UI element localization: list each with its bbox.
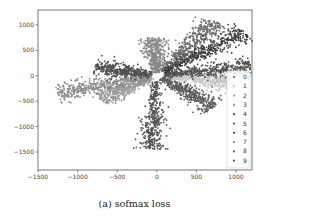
data-point (101, 63, 103, 65)
data-point (121, 86, 123, 88)
data-point (138, 88, 140, 90)
data-point (189, 32, 191, 34)
data-point (201, 27, 203, 29)
data-point (200, 33, 202, 35)
data-point (64, 81, 66, 83)
data-point (181, 80, 183, 82)
data-point (142, 72, 144, 74)
data-point (129, 80, 131, 82)
data-point (159, 105, 161, 107)
data-point (219, 74, 221, 76)
data-point (143, 76, 145, 78)
data-point (114, 82, 116, 84)
data-point (102, 70, 104, 72)
data-point (208, 46, 210, 48)
data-point (70, 84, 72, 86)
data-point (210, 61, 212, 63)
data-point (69, 86, 71, 88)
data-point (173, 54, 175, 56)
data-point (220, 72, 222, 74)
data-point (105, 62, 107, 64)
data-point (208, 102, 210, 104)
data-point (201, 50, 203, 52)
data-point (135, 138, 137, 140)
data-point (157, 66, 159, 68)
data-point (83, 95, 85, 97)
data-point (55, 87, 57, 89)
data-point (207, 87, 209, 89)
data-point (118, 68, 120, 70)
data-point (116, 86, 118, 88)
data-point (147, 146, 149, 148)
data-point (184, 56, 186, 58)
data-point (241, 67, 243, 69)
data-point (155, 110, 157, 112)
data-point (168, 81, 170, 83)
data-point (201, 18, 203, 20)
data-point (144, 135, 146, 137)
data-point (85, 92, 87, 94)
data-point (159, 54, 161, 56)
data-point (221, 37, 223, 39)
data-point (140, 120, 142, 122)
data-point (157, 69, 159, 71)
data-point (104, 66, 106, 68)
data-point (203, 19, 205, 21)
data-point (197, 35, 199, 37)
data-point (160, 45, 162, 47)
data-point (148, 42, 150, 44)
data-point (113, 88, 115, 90)
data-point (240, 58, 242, 60)
data-point (167, 71, 169, 73)
data-point (145, 74, 147, 76)
data-point (176, 61, 178, 63)
data-point (134, 92, 136, 94)
data-point (83, 83, 85, 85)
data-point (158, 132, 160, 134)
data-point (195, 100, 197, 102)
data-point (155, 124, 157, 126)
data-point (193, 65, 195, 67)
data-point (237, 39, 239, 41)
data-point (80, 86, 82, 88)
data-point (182, 61, 184, 63)
data-point (207, 106, 209, 108)
data-point (178, 68, 180, 70)
data-point (139, 147, 141, 149)
data-point (100, 90, 102, 92)
data-point (195, 70, 197, 72)
data-point (215, 75, 217, 77)
data-point (181, 49, 183, 51)
data-point (115, 63, 117, 65)
data-point (205, 38, 207, 40)
data-point (190, 54, 192, 56)
data-point (197, 71, 199, 73)
data-point (81, 76, 83, 78)
data-point (124, 73, 126, 75)
data-point (152, 142, 154, 144)
data-point (156, 55, 158, 57)
data-point (224, 69, 226, 71)
data-point (95, 75, 97, 77)
data-point (93, 72, 95, 74)
data-point (201, 89, 203, 91)
data-point (150, 94, 152, 96)
data-point (220, 48, 222, 50)
data-point (142, 124, 144, 126)
data-point (189, 89, 191, 91)
data-point (107, 61, 109, 63)
data-point (247, 35, 249, 37)
data-point (89, 80, 91, 82)
data-point (104, 81, 106, 83)
data-point (131, 88, 133, 90)
data-point (220, 95, 222, 97)
data-point (196, 91, 198, 93)
data-point (192, 38, 194, 40)
data-point (143, 137, 145, 139)
data-point (201, 55, 203, 57)
data-point (152, 134, 154, 136)
legend-label: 9 (243, 157, 247, 164)
data-point (180, 56, 182, 58)
data-point (122, 62, 124, 64)
data-point (163, 56, 165, 58)
